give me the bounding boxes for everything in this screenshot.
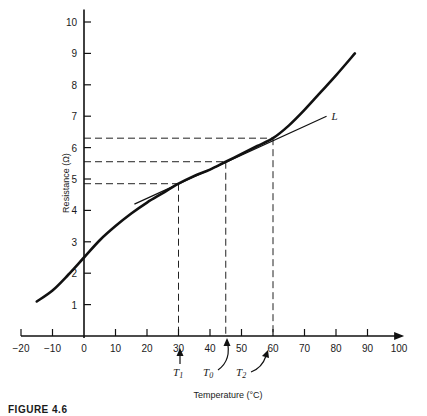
- reference-dashed-lines: [84, 138, 273, 336]
- x-axis-label: Temperature (°C): [193, 390, 262, 400]
- x-tick-label: 60: [267, 343, 279, 354]
- y-tick-label: 4: [71, 205, 77, 216]
- x-tick-label: 20: [141, 343, 153, 354]
- y-axis-label: Resistance (Ω): [61, 153, 71, 213]
- t2-arrowhead-icon: [262, 350, 269, 358]
- y-tick-label: 7: [71, 111, 77, 122]
- t1-label: T1: [173, 366, 183, 380]
- x-tick-label: 90: [362, 343, 374, 354]
- tangent-label: L: [331, 110, 338, 122]
- t2-label: T2: [236, 366, 246, 380]
- x-tick-label: 70: [299, 343, 311, 354]
- y-tick-label: 6: [71, 143, 77, 154]
- x-tick-label: −20: [13, 343, 30, 354]
- y-tick-label: 8: [71, 80, 77, 91]
- x-tick-label: 50: [236, 343, 248, 354]
- y-tick-label: 9: [71, 48, 77, 59]
- t0-arrowhead-icon: [224, 338, 231, 346]
- x-tick-label: −10: [44, 343, 61, 354]
- temperature-markers: T1 T0 T2: [173, 338, 269, 380]
- y-tick-label: 5: [71, 174, 77, 185]
- x-tick-label: 100: [391, 343, 408, 354]
- x-tick-label: 10: [110, 343, 122, 354]
- t2-arrow-icon: [251, 356, 266, 372]
- resistance-temperature-chart: −20−10010203040506070809010012345678910 …: [0, 0, 427, 416]
- tangent-line-L: [134, 116, 326, 204]
- y-tick-label: 10: [66, 17, 78, 28]
- y-tick-label: 1: [71, 300, 77, 311]
- x-tick-label: 80: [330, 343, 342, 354]
- x-tick-label: 0: [81, 343, 87, 354]
- axis-ticks: −20−10010203040506070809010012345678910: [13, 17, 408, 354]
- x-axis-arrow-icon: [394, 332, 404, 340]
- y-tick-label: 3: [71, 237, 77, 248]
- axes: [21, 9, 404, 340]
- figure-caption: FIGURE 4.6: [8, 404, 67, 415]
- x-tick-label: 40: [204, 343, 216, 354]
- t0-label: T0: [203, 366, 213, 380]
